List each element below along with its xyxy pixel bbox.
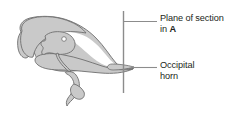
label-plane-of-section-prefix: in	[160, 24, 169, 34]
figure-container: Plane of section in A Occipital horn	[0, 0, 236, 119]
central-nucleus-shape	[41, 32, 75, 55]
ventricle-cast-group	[18, 16, 134, 106]
label-occipital-horn: Occipital horn	[160, 60, 194, 83]
label-plane-of-section-line1: Plane of section	[160, 13, 224, 23]
label-plane-of-section-reference: A	[169, 24, 176, 34]
label-occipital-horn-line1: Occipital	[160, 60, 194, 70]
label-occipital-horn-line2: horn	[160, 71, 194, 82]
label-plane-of-section: Plane of section in A	[160, 13, 224, 36]
foramen-icon	[62, 37, 67, 42]
label-plane-of-section-line2: in A	[160, 24, 224, 35]
